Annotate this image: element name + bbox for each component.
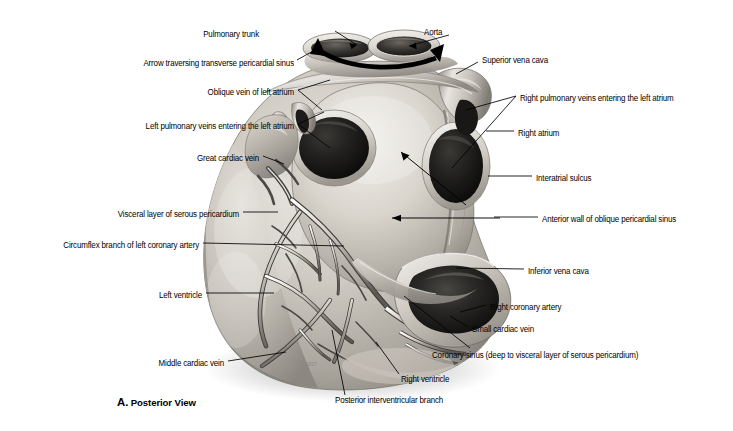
label-interatrial-sulcus: Interatrial sulcus bbox=[536, 173, 591, 183]
label-oblique-vein-left-atrium: Oblique vein of left atrium bbox=[15, 87, 294, 97]
label-small-cardiac-vein: Small cardiac vein bbox=[472, 324, 534, 334]
label-superior-vena-cava: Superior vena cava bbox=[482, 55, 548, 65]
label-right-ventricle: Right ventricle bbox=[401, 374, 449, 384]
anatomical-figure: 1627 bbox=[0, 0, 733, 431]
label-right-coronary-artery: Right coronary artery bbox=[490, 302, 561, 312]
caption-text: Posterior View bbox=[131, 397, 196, 408]
label-aorta: Aorta bbox=[424, 27, 442, 37]
label-right-pulmonary-veins: Right pulmonary veins entering the left … bbox=[520, 93, 674, 103]
label-middle-cardiac-vein: Middle cardiac vein bbox=[11, 358, 224, 368]
label-great-cardiac-vein: Great cardiac vein bbox=[13, 153, 259, 163]
label-anterior-wall-oblique-pericardial-sinus: Anterior wall of oblique pericardial sin… bbox=[542, 214, 676, 224]
caption-letter: A. bbox=[117, 396, 128, 408]
plate-number: 1627 bbox=[306, 361, 317, 367]
label-inferior-vena-cava: Inferior vena cava bbox=[528, 266, 589, 276]
figure-caption: A. Posterior View bbox=[117, 396, 196, 408]
label-left-pulmonary-veins: Left pulmonary veins entering the left a… bbox=[15, 121, 294, 131]
label-pulmonary-trunk: Pulmonary trunk bbox=[13, 29, 259, 39]
label-left-ventricle: Left ventricle bbox=[10, 290, 202, 300]
label-posterior-interventricular-branch: Posterior interventricular branch bbox=[335, 395, 443, 405]
label-right-atrium: Right atrium bbox=[518, 128, 559, 138]
label-arrow-transverse-pericardial-sinus: Arrow traversing transverse pericardial … bbox=[15, 58, 294, 68]
label-coronary-sinus: Coronary sinus (deep to visceral layer o… bbox=[432, 350, 638, 360]
label-visceral-layer-serous-pericardium: Visceral layer of serous pericardium bbox=[12, 209, 239, 219]
label-circumflex-branch-left-coronary-artery: Circumflex branch of left coronary arter… bbox=[10, 240, 199, 250]
